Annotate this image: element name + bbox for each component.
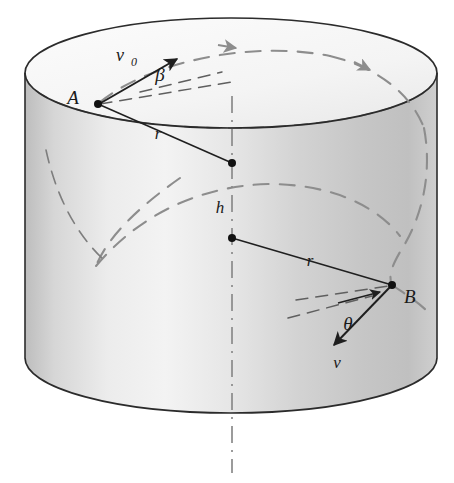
point-b-marker (388, 281, 396, 289)
point-a-marker (94, 100, 102, 108)
label-angle-theta: θ (343, 313, 352, 334)
label-point-b: B (404, 286, 416, 307)
label-v0-subscript: 0 (131, 55, 137, 69)
label-height: h (216, 198, 225, 217)
cylinder-helix-diagram: A B v 0 β θ r r h v (0, 0, 454, 483)
figure-container: A B v 0 β θ r r h v (0, 0, 454, 483)
top-center-marker (228, 159, 236, 167)
label-point-a: A (65, 87, 79, 108)
label-radius-bottom: r (307, 251, 314, 270)
label-angle-beta: β (154, 64, 165, 85)
cylinder-solid (25, 18, 437, 413)
label-v0: v (116, 45, 124, 65)
lower-center-marker (228, 234, 236, 242)
label-radius-top: r (155, 124, 162, 143)
label-v: v (333, 353, 341, 372)
